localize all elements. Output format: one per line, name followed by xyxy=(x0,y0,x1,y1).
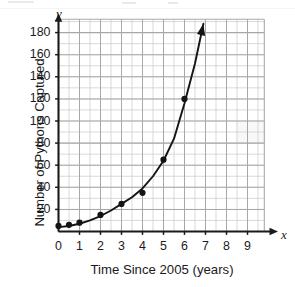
y-tick-label-80: 80 xyxy=(17,136,51,150)
y-tick-label-100: 100 xyxy=(17,114,51,128)
x-tick-label-1: 1 xyxy=(70,239,90,253)
x-axis-letter: x xyxy=(281,227,287,243)
y-tick-label-140: 140 xyxy=(17,69,51,83)
x-tick-label-4: 4 xyxy=(133,239,153,253)
y-tick-label-160: 160 xyxy=(17,47,51,61)
x-axis-title: Time Since 2005 (years) xyxy=(48,262,276,277)
x-tick-label-2: 2 xyxy=(91,239,111,253)
x-tick-label-5: 5 xyxy=(154,239,174,253)
x-tick-label-7: 7 xyxy=(196,239,216,253)
x-tick-label-8: 8 xyxy=(217,239,237,253)
x-tick-label-9: 9 xyxy=(238,239,258,253)
x-tick-label-6: 6 xyxy=(175,239,195,253)
major-gridlines xyxy=(59,19,265,231)
axis-tick-marks xyxy=(55,33,247,235)
y-tick-label-60: 60 xyxy=(17,158,51,172)
y-axis-line xyxy=(55,13,62,231)
y-tick-label-40: 40 xyxy=(17,180,51,194)
x-tick-label-3: 3 xyxy=(112,239,132,253)
x-axis-line xyxy=(59,228,279,235)
y-tick-label-20: 20 xyxy=(17,202,51,216)
minor-gridlines xyxy=(59,19,265,231)
graph-screenshot: y x Number of Pythons Captured Time Sinc… xyxy=(0,0,295,287)
y-axis-letter: y xyxy=(56,6,62,22)
y-tick-label-120: 120 xyxy=(17,91,51,105)
y-tick-label-180: 180 xyxy=(17,25,51,39)
x-tick-label-0: 0 xyxy=(49,239,69,253)
